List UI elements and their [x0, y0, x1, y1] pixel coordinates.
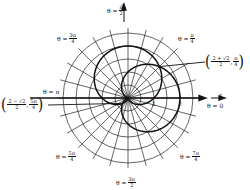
- frac-den: 2: [130, 183, 133, 188]
- angle-label-3pi-over-2: θ = 3π2: [116, 177, 136, 188]
- axes: [30, 4, 225, 101]
- tick-label-2: 2: [178, 100, 182, 107]
- grid-radial-line: [128, 98, 196, 116]
- left-paren: (: [205, 53, 210, 70]
- frac-den: 4: [71, 39, 74, 44]
- angle-prefix: θ = 0: [207, 103, 223, 109]
- intersection-label-5pi-over-4: ( 2 − √22 , 5π4 ): [1, 97, 43, 111]
- right-paren: ): [239, 53, 244, 70]
- left-paren: (: [1, 96, 6, 113]
- intersection-label-pi-over-4: ( 2 + √22 , π4 ): [205, 54, 244, 68]
- frac-den: 2: [120, 11, 123, 16]
- grid-radial-line: [60, 98, 128, 116]
- angle-label-pi-over-4: θ = π4: [178, 33, 195, 44]
- angle-fraction: 3π2: [128, 177, 136, 188]
- frac-den: 4: [234, 62, 237, 67]
- y-axis-label: y: [121, 1, 124, 8]
- angle-label-3pi-over-4: θ = 3π4: [57, 33, 77, 44]
- right-paren: ): [38, 96, 43, 113]
- frac-den: 2: [219, 62, 222, 67]
- angle-fraction: 7π4: [192, 151, 200, 162]
- frac-den: 2: [15, 105, 18, 110]
- angle-prefix: θ =: [107, 8, 118, 14]
- comma: ,: [26, 101, 28, 108]
- angle-label-zero: θ = 0: [207, 103, 223, 109]
- angle-prefix: θ =: [116, 180, 127, 186]
- angle-prefix: θ =: [56, 154, 67, 160]
- comma: ,: [230, 58, 232, 65]
- grid-radial-line: [110, 98, 128, 166]
- theta-fraction: 5π4: [29, 99, 37, 110]
- angle-prefix: θ =: [180, 154, 191, 160]
- polar-graph-figure: θ = π2 θ = 3π4 θ = π4 θ = π θ = 0 θ = 5π…: [0, 0, 250, 190]
- tick-label-1: 1: [152, 100, 156, 107]
- angle-prefix: θ =: [178, 36, 189, 42]
- angle-fraction: π4: [190, 33, 195, 44]
- angle-fraction: 5π4: [68, 151, 76, 162]
- polar-axis-arrow: [199, 96, 206, 101]
- angle-label-pi: θ = π: [43, 89, 59, 95]
- angle-label-5pi-over-4: θ = 5π4: [56, 151, 76, 162]
- angle-label-7pi-over-4: θ = 7π4: [180, 151, 200, 162]
- angle-prefix: θ = π: [43, 89, 59, 95]
- frac-den: 4: [191, 39, 194, 44]
- grid-radial-line: [110, 30, 128, 98]
- frac-den: 4: [194, 157, 197, 162]
- angle-fraction: 3π4: [69, 33, 77, 44]
- angle-prefix: θ =: [57, 36, 68, 42]
- r-fraction: 2 + √22: [211, 56, 230, 67]
- frac-den: 4: [32, 105, 35, 110]
- x-axis-label: x: [219, 91, 222, 98]
- frac-den: 4: [70, 157, 73, 162]
- r-fraction: 2 − √22: [7, 99, 26, 110]
